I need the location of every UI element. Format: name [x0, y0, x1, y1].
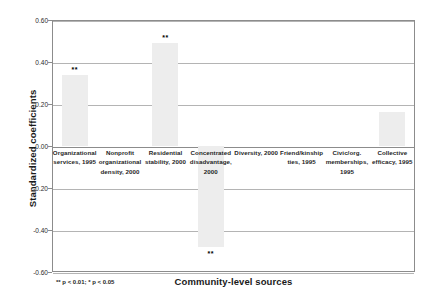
bar-slot — [234, 20, 279, 272]
bar-series: ****** — [52, 20, 415, 272]
x-axis-category-label: Organizational services, 1995 — [52, 148, 97, 167]
significance-footnote: ** p < 0.01; * p < 0.05 — [56, 279, 114, 285]
bar-slot: ** — [52, 20, 97, 272]
y-axis-tick-label: -0.20 — [8, 185, 48, 192]
y-axis-tick-label: -0.40 — [8, 227, 48, 234]
x-axis-category-label: Diversity, 2000 — [234, 148, 279, 157]
gridline — [53, 273, 414, 274]
bar-slot — [279, 20, 324, 272]
x-axis-category-label: Friend/kinship ties, 1995 — [279, 148, 324, 167]
y-axis-tick-label: -0.60 — [8, 269, 48, 276]
y-axis-tick-mark — [48, 272, 52, 273]
y-axis-tick-label: 0.60 — [8, 17, 48, 24]
bar-chart-figure: Standardized coefficients 0.600.400.200.… — [0, 0, 433, 305]
y-axis-tick-label: 0.00 — [8, 143, 48, 150]
bar-slot — [370, 20, 415, 272]
x-axis-category-label: Civic/org. memberships, 1995 — [324, 148, 369, 176]
significance-marker: ** — [71, 66, 77, 73]
x-axis-category-label: Nonprofit organizational density, 2000 — [97, 148, 142, 176]
significance-marker: ** — [208, 250, 214, 257]
bar — [152, 43, 178, 146]
bar-slot: ** — [143, 20, 188, 272]
x-axis-category-label: Collective efficacy, 1995 — [370, 148, 415, 167]
bar-slot — [324, 20, 369, 272]
y-axis-tick-label: 0.40 — [8, 59, 48, 66]
y-axis-tick-label: 0.20 — [8, 101, 48, 108]
bar-slot — [97, 20, 142, 272]
x-axis-category-label: Residential stability, 2000 — [143, 148, 188, 167]
x-axis-category-label: Concentrated disadvantage, 2000 — [188, 148, 233, 176]
bar — [379, 112, 405, 146]
x-axis-category-labels: Organizational services, 1995Nonprofit o… — [52, 148, 415, 190]
bar-slot: ** — [188, 20, 233, 272]
significance-marker: ** — [162, 34, 168, 41]
bar — [62, 75, 88, 146]
